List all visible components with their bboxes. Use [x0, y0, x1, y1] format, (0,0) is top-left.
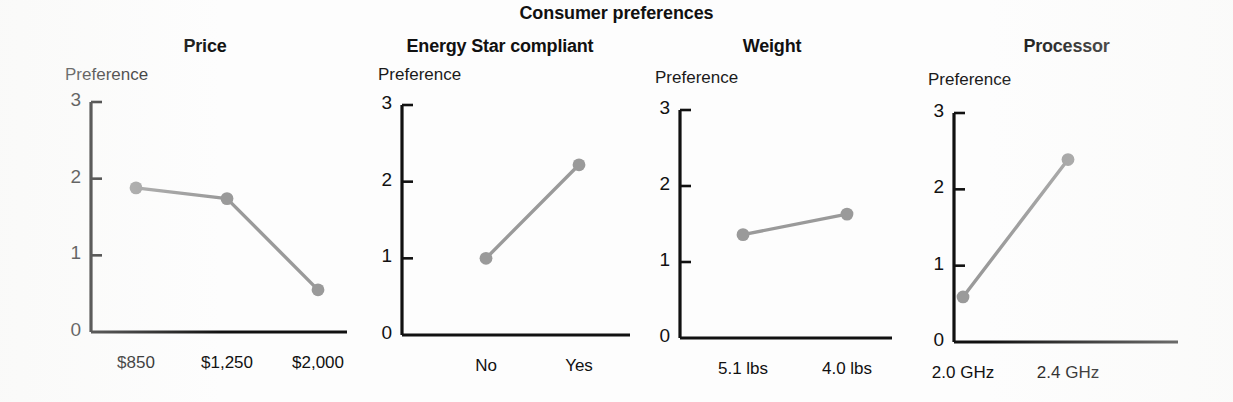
panel-energy-star: Energy Star compliant Preference 0123NoY… [350, 0, 650, 402]
y-tick-label-weight-0: 0 [648, 325, 670, 347]
consumer-preferences-figure: Consumer preferences Price Preference 01… [0, 0, 1233, 402]
x-tick-label-energy-star-0: No [475, 356, 497, 376]
x-tick-label-processor-0: 2.0 GHz [932, 363, 994, 383]
y-tick-label-energy-star-2: 2 [370, 169, 392, 191]
y-tick-label-energy-star-0: 0 [370, 322, 392, 344]
y-tick-label-price-1: 1 [59, 242, 81, 264]
data-point-energy-star-1[interactable] [573, 158, 586, 171]
y-tick-label-price-2: 2 [59, 166, 81, 188]
data-point-weight-0[interactable] [737, 228, 750, 241]
x-tick-label-weight-0: 5.1 lbs [718, 359, 768, 379]
data-point-energy-star-0[interactable] [480, 252, 493, 265]
y-tick-label-price-3: 3 [59, 89, 81, 111]
data-point-price-1[interactable] [221, 192, 234, 205]
panel-processor: Processor Preference 01232.0 GHz2.4 GHz [900, 0, 1233, 402]
y-tick-label-weight-1: 1 [648, 249, 670, 271]
y-tick-label-weight-3: 3 [648, 97, 670, 119]
y-tick-label-processor-2: 2 [922, 176, 944, 198]
series-line-energy-star [486, 165, 579, 259]
data-point-processor-0[interactable] [957, 291, 970, 304]
y-tick-label-processor-0: 0 [922, 329, 944, 351]
data-point-price-2[interactable] [312, 283, 325, 296]
x-tick-label-energy-star-1: Yes [565, 356, 593, 376]
series-line-processor [963, 160, 1068, 297]
y-tick-label-energy-star-1: 1 [370, 245, 392, 267]
y-tick-label-processor-1: 1 [922, 253, 944, 275]
panel-weight: Weight Preference 01235.1 lbs4.0 lbs [627, 0, 917, 402]
y-tick-label-energy-star-3: 3 [370, 92, 392, 114]
x-tick-label-price-1: $1,250 [201, 353, 253, 373]
plot-area-energy-star [350, 0, 650, 402]
x-tick-label-weight-1: 4.0 lbs [822, 359, 872, 379]
x-tick-label-price-0: $850 [117, 353, 155, 373]
y-tick-label-weight-2: 2 [648, 173, 670, 195]
series-line-weight [743, 214, 847, 235]
x-tick-label-processor-1: 2.4 GHz [1037, 363, 1099, 383]
plot-area-processor [900, 0, 1233, 402]
data-point-weight-1[interactable] [841, 208, 854, 221]
y-tick-label-price-0: 0 [59, 319, 81, 341]
plot-area-weight [627, 0, 917, 402]
y-tick-label-processor-3: 3 [922, 100, 944, 122]
x-tick-label-price-2: $2,000 [292, 353, 344, 373]
data-point-price-0[interactable] [130, 181, 143, 194]
data-point-processor-1[interactable] [1062, 153, 1075, 166]
plot-area-price [40, 0, 370, 402]
panel-price: Price Preference 0123$850$1,250$2,000 [40, 0, 370, 402]
